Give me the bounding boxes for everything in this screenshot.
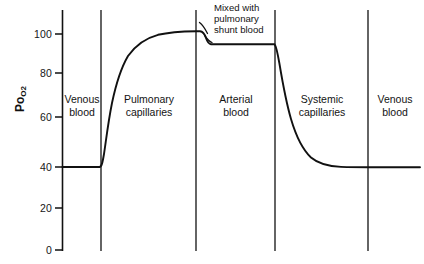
zone-label-arterial-blood: Arterial blood <box>198 93 274 118</box>
po2-circulation-figure: 100 80 60 40 20 0 PoO2 Venous blood Pulm… <box>0 0 424 264</box>
zone-label-venous-blood-right: Venous blood <box>370 93 420 118</box>
y-tick-label-60: 60 <box>22 112 52 123</box>
y-tick-label-20: 20 <box>22 203 52 214</box>
y-axis-title: PoO2 <box>14 86 26 112</box>
zone-label-systemic-capillaries: Systemic capillaries <box>278 93 366 118</box>
zone-label-pulmonary-capillaries: Pulmonary capillaries <box>104 93 194 118</box>
shunt-blood-annotation: Mixed with pulmonary shunt blood <box>214 3 264 35</box>
y-axis-title-subscript: O2 <box>19 86 28 97</box>
y-tick-label-40: 40 <box>22 162 52 173</box>
y-tick-label-100: 100 <box>22 29 52 40</box>
y-axis-title-main: Po <box>13 97 27 112</box>
plot-canvas <box>0 0 424 264</box>
y-tick-label-80: 80 <box>22 68 52 79</box>
y-tick-label-0: 0 <box>22 245 52 256</box>
zone-label-venous-blood-left: Venous blood <box>63 93 101 118</box>
